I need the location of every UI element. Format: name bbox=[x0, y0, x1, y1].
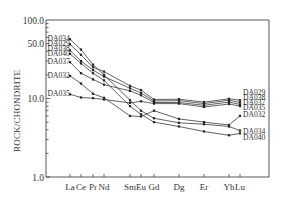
data-point-marker bbox=[153, 110, 155, 112]
data-point-marker bbox=[239, 132, 241, 134]
ree-chondrite-chart: 100.050.010.01.0 LaCePrNdSmEuGdDgErYbLu … bbox=[0, 0, 285, 204]
data-point-marker bbox=[129, 99, 131, 101]
y-tick-label: 10.0 bbox=[27, 94, 44, 104]
data-point-marker bbox=[92, 97, 94, 99]
data-point-marker bbox=[203, 121, 205, 123]
x-tick-label-ce: Ce bbox=[76, 182, 86, 192]
data-point-marker bbox=[140, 89, 142, 91]
data-point-marker bbox=[92, 93, 94, 95]
series-da034 bbox=[69, 38, 241, 132]
data-point-marker bbox=[203, 123, 205, 125]
data-point-marker bbox=[140, 94, 142, 96]
data-point-marker bbox=[92, 64, 94, 66]
x-tick-label-er: Er bbox=[200, 182, 209, 192]
x-tick-label-nd: Nd bbox=[99, 182, 110, 192]
data-point-marker bbox=[140, 113, 142, 115]
data-point-marker bbox=[80, 96, 82, 98]
data-point-marker bbox=[239, 115, 241, 117]
data-point-marker bbox=[80, 62, 82, 64]
data-point-marker bbox=[129, 115, 131, 117]
data-point-marker bbox=[129, 102, 131, 104]
data-point-marker bbox=[129, 90, 131, 92]
data-point-marker bbox=[140, 100, 142, 102]
x-tick-label-dy: Dg bbox=[174, 182, 185, 192]
data-point-marker bbox=[103, 98, 105, 100]
data-point-marker bbox=[178, 118, 180, 120]
y-tick-label: 50.0 bbox=[27, 39, 44, 49]
right-label-da040: DA040 bbox=[243, 133, 266, 142]
right-label-da032: DA032 bbox=[243, 110, 266, 119]
data-point-marker bbox=[103, 84, 105, 86]
x-tick-label-pr: Pr bbox=[89, 182, 97, 192]
left-label-da035: DA035 bbox=[48, 89, 71, 98]
data-point-marker bbox=[80, 72, 82, 74]
data-point-marker bbox=[178, 125, 180, 127]
data-point-marker bbox=[140, 115, 142, 117]
y-tick-label: 1.0 bbox=[32, 173, 44, 183]
data-point-marker bbox=[140, 92, 142, 94]
data-point-marker bbox=[80, 54, 82, 56]
x-tick-label-eu: Eu bbox=[136, 182, 146, 192]
data-point-marker bbox=[203, 130, 205, 132]
x-tick-label-la: La bbox=[65, 182, 75, 192]
data-point-marker bbox=[103, 79, 105, 81]
x-tick-label-gd: Gd bbox=[149, 182, 160, 192]
data-point-marker bbox=[178, 122, 180, 124]
data-point-marker bbox=[239, 99, 241, 101]
data-point-marker bbox=[129, 87, 131, 89]
data-point-marker bbox=[80, 82, 82, 84]
y-axis-title: ROCK/CHONDRITE bbox=[12, 69, 22, 152]
data-point-marker bbox=[239, 130, 241, 132]
data-point-marker bbox=[228, 124, 230, 126]
data-point-marker bbox=[129, 105, 131, 107]
data-point-marker bbox=[92, 69, 94, 71]
x-tick-label-sm: Sm bbox=[124, 182, 136, 192]
data-point-marker bbox=[153, 121, 155, 123]
data-point-marker bbox=[103, 76, 105, 78]
plot-frame bbox=[46, 20, 269, 177]
data-point-marker bbox=[153, 117, 155, 119]
data-point-marker bbox=[129, 85, 131, 87]
data-point-marker bbox=[239, 105, 241, 107]
x-tick-label-lu: Lu bbox=[235, 182, 245, 192]
left-label-da032: DA032 bbox=[48, 71, 71, 80]
data-point-marker bbox=[239, 101, 241, 103]
data-point-marker bbox=[153, 103, 155, 105]
data-point-marker bbox=[178, 103, 180, 105]
data-point-marker bbox=[103, 71, 105, 73]
data-point-marker bbox=[92, 66, 94, 68]
series-lines bbox=[69, 38, 241, 136]
series-da038 bbox=[69, 49, 241, 104]
data-point-marker bbox=[92, 78, 94, 80]
data-point-marker bbox=[80, 48, 82, 50]
data-point-marker bbox=[228, 103, 230, 105]
left-label-da037: DA037 bbox=[48, 57, 71, 66]
right-series-labels: DA029DA038DA037DA035DA032DA034DA040 bbox=[243, 88, 266, 142]
y-tick-label: 100.0 bbox=[23, 16, 45, 26]
data-point-marker bbox=[140, 110, 142, 112]
left-series-labels: DA034DA029DA038DA040DA037DA032DA035 bbox=[48, 34, 71, 98]
data-point-marker bbox=[203, 106, 205, 108]
data-point-marker bbox=[80, 60, 82, 62]
data-point-marker bbox=[92, 72, 94, 74]
data-point-marker bbox=[228, 101, 230, 103]
data-point-marker bbox=[228, 134, 230, 136]
x-tick-label-yb: Yb bbox=[224, 182, 235, 192]
